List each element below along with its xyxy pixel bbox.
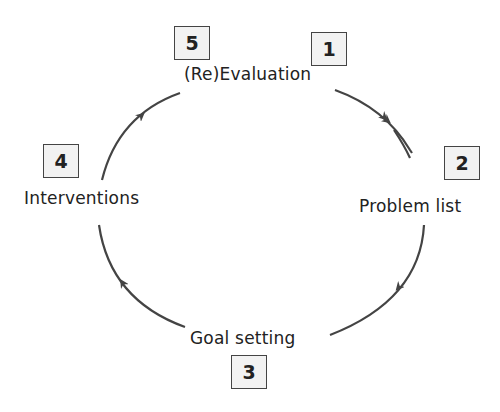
node-label-goal-setting: Goal setting	[190, 328, 295, 348]
step-badge-5: 5	[174, 26, 210, 60]
node-label-evaluation: (Re)Evaluation	[184, 64, 311, 84]
node-label-problem-list: Problem list	[359, 196, 461, 216]
arc-goal-setting-to-interventions	[99, 225, 185, 327]
arc-evaluation-to-problem-list	[335, 90, 412, 153]
arc-problem-list-to-goal-setting	[330, 225, 424, 335]
step-badge-2: 2	[444, 146, 480, 180]
step-badge-4: 4	[43, 144, 79, 178]
step-badge-1: 1	[311, 32, 347, 66]
arc-interventions-to-evaluation	[102, 93, 180, 180]
node-label-interventions: Interventions	[24, 188, 139, 208]
step-badge-3: 3	[231, 355, 267, 389]
cycle-diagram: 5 1 2 4 3 (Re)Evaluation Problem list In…	[0, 0, 500, 412]
